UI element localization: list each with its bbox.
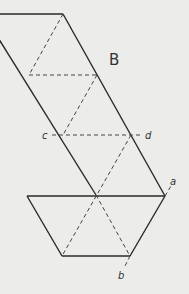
right-long-edge xyxy=(63,14,165,196)
point-label-b: b xyxy=(118,270,124,281)
point-label-a: a xyxy=(170,176,176,187)
fold-line xyxy=(29,14,63,75)
dashed-fold-lines xyxy=(29,14,171,268)
bottom-left-edge xyxy=(27,196,62,256)
fold-line xyxy=(63,75,97,135)
left-long-edge xyxy=(0,28,96,195)
folding-net-diagram: B c d a b xyxy=(0,0,189,294)
point-label-d: d xyxy=(145,130,152,141)
fold-line-b-ext xyxy=(124,256,130,268)
point-label-c: c xyxy=(42,130,48,141)
bottom-right-edge xyxy=(130,196,165,256)
fold-line xyxy=(96,195,130,256)
fold-line-a-ext xyxy=(165,186,171,196)
region-label-b: B xyxy=(109,51,119,69)
